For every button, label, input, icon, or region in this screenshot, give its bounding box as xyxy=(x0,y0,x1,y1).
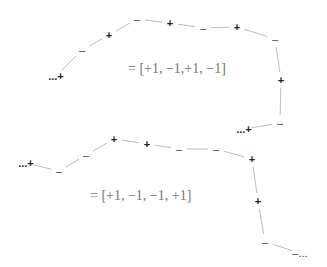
bond-line xyxy=(211,27,229,28)
charge-symbol: + xyxy=(234,22,240,33)
bond-line xyxy=(280,88,281,115)
charge-symbol: – xyxy=(213,144,219,155)
charge-symbol: – xyxy=(200,23,206,34)
charge-symbol: + xyxy=(249,154,255,165)
charge-symbol: ...+ xyxy=(48,71,64,82)
charge-symbol: – xyxy=(134,14,140,25)
bond-line xyxy=(34,165,51,169)
bond-line xyxy=(145,20,162,22)
charge-symbol: – xyxy=(262,237,268,248)
charge-symbol: + xyxy=(111,134,117,145)
bond-line xyxy=(178,24,195,27)
charge-symbol: ...+ xyxy=(236,124,252,135)
bond-line xyxy=(89,39,102,46)
bond-line xyxy=(155,145,171,148)
bond-line xyxy=(253,167,257,193)
bond-line xyxy=(245,29,268,36)
chain-b-equation: = [+1, −1, −1, +1] xyxy=(90,188,191,204)
polymer-chain-diagram: = [+1, −1,+1, −1] = [+1, −1, −1, +1] ...… xyxy=(0,0,327,267)
bond-line xyxy=(259,209,263,234)
bond-line xyxy=(93,143,107,151)
bond-line xyxy=(224,151,245,157)
bond-line xyxy=(62,56,77,71)
charge-symbol: + xyxy=(106,30,112,41)
charge-symbol: – xyxy=(272,34,278,45)
charge-symbol: – xyxy=(79,45,85,56)
bond-line xyxy=(276,47,280,72)
charge-symbol: + xyxy=(278,75,284,86)
charge-symbol: – xyxy=(83,150,89,161)
charge-symbol: – xyxy=(277,118,283,129)
charge-symbol: ...+ xyxy=(18,158,34,169)
charge-symbol: –... xyxy=(292,248,307,259)
chain-a-equation: = [+1, −1,+1, −1] xyxy=(128,61,226,77)
charge-symbol: – xyxy=(176,144,182,155)
bond-line xyxy=(116,23,130,31)
charge-symbol: + xyxy=(144,139,150,150)
bond-line xyxy=(66,159,79,167)
bond-line xyxy=(122,140,139,143)
bond-line xyxy=(252,124,272,127)
bond-line xyxy=(273,244,293,250)
charge-symbol: + xyxy=(167,18,173,29)
charge-symbol: + xyxy=(255,196,261,207)
charge-symbol: – xyxy=(56,166,62,177)
